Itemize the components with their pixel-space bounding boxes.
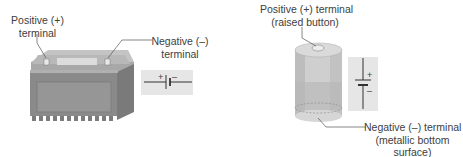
dry-cell-circuit-symbol	[348, 57, 378, 111]
label-line: Positive (+) terminal	[260, 3, 350, 16]
cell-negative-label: Negative (–) terminal (metallic bottom s…	[364, 121, 461, 157]
car-symbol-minus: –	[172, 71, 177, 84]
cell-symbol-plus: +	[367, 69, 372, 82]
positive-terminal	[44, 59, 49, 65]
car-negative-label: Negative (–) terminal	[150, 35, 210, 60]
label-line: (raised button)	[260, 16, 350, 29]
label-line: terminal	[10, 27, 65, 40]
negative-terminal	[105, 59, 110, 65]
label-line: surface)	[364, 146, 461, 157]
label-line: (metallic bottom	[364, 134, 461, 147]
car-battery-illustration	[30, 34, 152, 121]
label-line: Positive (+)	[10, 14, 65, 27]
car-battery-circuit-symbol	[141, 70, 193, 95]
label-line: Negative (–)	[150, 35, 210, 48]
car-symbol-plus: +	[158, 71, 163, 84]
cell-symbol-minus: –	[367, 85, 372, 98]
cell-positive-label: Positive (+) terminal (raised button)	[260, 3, 350, 28]
car-positive-label: Positive (+) terminal	[10, 14, 65, 39]
label-line: Negative (–) terminal	[364, 121, 461, 134]
raised-button-terminal	[312, 45, 324, 51]
label-line: terminal	[150, 48, 210, 61]
